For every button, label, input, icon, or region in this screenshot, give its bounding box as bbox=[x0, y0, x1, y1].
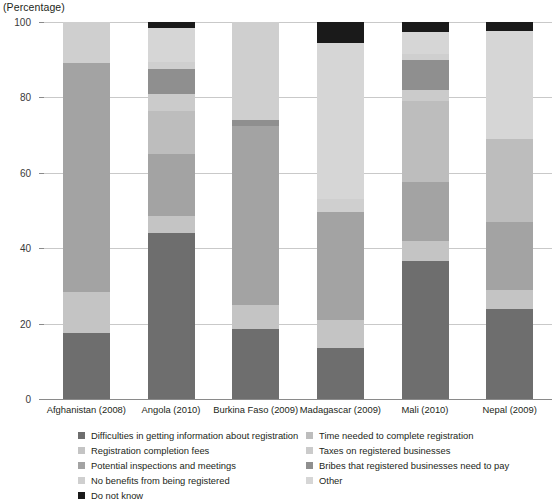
bar-mali-2010[interactable] bbox=[402, 22, 449, 399]
bar-segment bbox=[317, 212, 364, 319]
legend-item[interactable]: No benefits from being registered bbox=[78, 473, 298, 488]
legend-swatch-icon bbox=[78, 462, 85, 469]
legend-item[interactable]: Difficulties in getting information abou… bbox=[78, 428, 298, 443]
x-axis-label-3: Burkina Faso (2009) bbox=[213, 404, 298, 415]
legend-label: Bribes that registered businesses need t… bbox=[319, 461, 509, 470]
legend-item[interactable]: Time needed to complete registration bbox=[306, 428, 509, 443]
bar-segment bbox=[317, 320, 364, 348]
bar-segment bbox=[402, 32, 449, 55]
bar-segment bbox=[317, 43, 364, 199]
legend-item[interactable]: Registration completion fees bbox=[78, 443, 298, 458]
legend-item[interactable]: Bribes that registered businesses need t… bbox=[306, 458, 509, 473]
y-axis-unit-label: (Percentage) bbox=[3, 1, 65, 13]
legend-label: Registration completion fees bbox=[91, 446, 209, 455]
gridline-100 bbox=[44, 22, 552, 23]
x-axis-label-1: Afghanistan (2008) bbox=[47, 404, 126, 415]
plot-area: 020406080100 bbox=[44, 22, 552, 399]
bar-afghanistan-2008[interactable] bbox=[63, 22, 110, 399]
legend-label: Taxes on registered businesses bbox=[319, 446, 450, 455]
legend-item[interactable]: Taxes on registered businesses bbox=[306, 443, 509, 458]
y-tick-mark-40 bbox=[39, 248, 44, 249]
bar-segment bbox=[63, 22, 110, 63]
legend-swatch-icon bbox=[306, 462, 313, 469]
y-tick-mark-80 bbox=[39, 97, 44, 98]
chart-legend: Difficulties in getting information abou… bbox=[78, 428, 548, 494]
gridline-0 bbox=[44, 399, 552, 400]
bar-segment bbox=[402, 101, 449, 182]
bar-madagascar-2009[interactable] bbox=[317, 22, 364, 399]
bar-segment bbox=[317, 22, 364, 43]
bar-segment bbox=[148, 233, 195, 399]
bar-segment bbox=[63, 63, 110, 291]
bar-segment bbox=[148, 216, 195, 233]
legend-swatch-icon bbox=[78, 492, 85, 499]
y-tick-label-0: 0 bbox=[0, 394, 31, 405]
legend-column-right: Time needed to complete registrationTaxe… bbox=[306, 428, 509, 488]
y-tick-mark-60 bbox=[39, 173, 44, 174]
y-tick-label-100: 100 bbox=[0, 17, 31, 28]
legend-column-left: Difficulties in getting information abou… bbox=[78, 428, 298, 503]
bar-segment bbox=[232, 22, 279, 120]
gridline-60 bbox=[44, 173, 552, 174]
gridline-80 bbox=[44, 97, 552, 98]
bar-segment bbox=[402, 22, 449, 31]
bar-segment bbox=[402, 241, 449, 262]
legend-label: Potential inspections and meetings bbox=[91, 461, 236, 470]
legend-swatch-icon bbox=[306, 447, 313, 454]
x-axis-label-6: Nepal (2009) bbox=[483, 404, 537, 415]
bar-segment bbox=[402, 60, 449, 90]
x-axis-label-5: Mali (2010) bbox=[402, 404, 449, 415]
bar-segment bbox=[232, 329, 279, 399]
y-tick-mark-20 bbox=[39, 324, 44, 325]
bar-segment bbox=[148, 69, 195, 94]
bar-segment bbox=[402, 90, 449, 101]
y-tick-label-60: 60 bbox=[0, 167, 31, 178]
legend-swatch-icon bbox=[78, 477, 85, 484]
bar-nepal-2009[interactable] bbox=[486, 22, 533, 399]
x-axis-label-2: Angola (2010) bbox=[142, 404, 201, 415]
bar-segment bbox=[402, 182, 449, 240]
bar-segment bbox=[317, 199, 364, 212]
legend-label: No benefits from being registered bbox=[91, 476, 230, 485]
bar-segment bbox=[148, 94, 195, 111]
bar-segment bbox=[148, 28, 195, 62]
legend-item[interactable]: Potential inspections and meetings bbox=[78, 458, 298, 473]
gridline-20 bbox=[44, 324, 552, 325]
bar-angola-2010[interactable] bbox=[148, 22, 195, 399]
legend-item[interactable]: Do not know bbox=[78, 488, 298, 503]
legend-swatch-icon bbox=[78, 432, 85, 439]
y-tick-mark-0 bbox=[39, 399, 44, 400]
bar-segment bbox=[232, 126, 279, 305]
bar-segment bbox=[317, 348, 364, 399]
legend-label: Time needed to complete registration bbox=[319, 431, 473, 440]
y-tick-label-80: 80 bbox=[0, 92, 31, 103]
bar-segment bbox=[402, 261, 449, 399]
gridline-40 bbox=[44, 248, 552, 249]
bar-segment bbox=[148, 62, 195, 70]
bar-burkina-faso-2009[interactable] bbox=[232, 22, 279, 399]
bar-segment bbox=[486, 309, 533, 399]
bar-segment bbox=[486, 22, 533, 31]
bar-segment bbox=[486, 31, 533, 138]
legend-item[interactable]: Other bbox=[306, 473, 509, 488]
y-tick-mark-100 bbox=[39, 22, 44, 23]
bar-segment bbox=[63, 333, 110, 399]
bar-segment bbox=[486, 290, 533, 309]
x-axis-label-4: Madagascar (2009) bbox=[300, 404, 381, 415]
bar-segment bbox=[148, 154, 195, 216]
bar-segment bbox=[486, 222, 533, 290]
bar-segment bbox=[148, 111, 195, 154]
y-tick-label-20: 20 bbox=[0, 318, 31, 329]
bar-segment bbox=[486, 139, 533, 222]
legend-label: Other bbox=[319, 476, 342, 485]
y-tick-label-40: 40 bbox=[0, 243, 31, 254]
legend-swatch-icon bbox=[306, 477, 313, 484]
legend-swatch-icon bbox=[78, 447, 85, 454]
legend-label: Difficulties in getting information abou… bbox=[91, 431, 298, 440]
legend-swatch-icon bbox=[306, 432, 313, 439]
legend-label: Do not know bbox=[91, 491, 143, 500]
bar-segment bbox=[63, 292, 110, 333]
bar-segment bbox=[232, 305, 279, 330]
